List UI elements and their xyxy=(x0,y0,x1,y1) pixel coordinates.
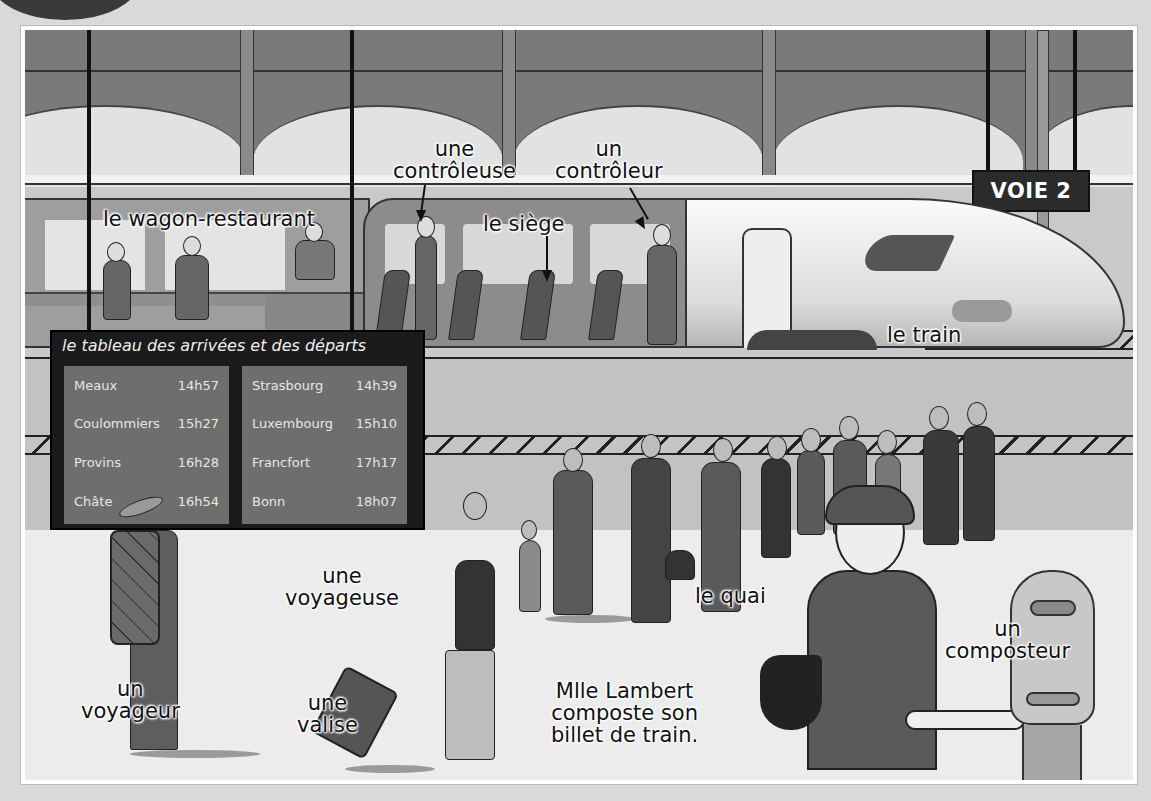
shadow xyxy=(130,750,260,758)
backpack xyxy=(110,530,160,645)
mlle-lambert-arm xyxy=(905,710,1025,730)
sign-hanger xyxy=(1073,30,1077,172)
train-bogie xyxy=(747,330,877,350)
label-controleuse: une contrôleuse xyxy=(393,138,516,182)
departures-panel: Strasbourg14h39 Luxembourg15h10 Francfor… xyxy=(242,366,407,524)
label-quai: le quai xyxy=(695,585,766,607)
shadow xyxy=(345,765,435,773)
roof-beam xyxy=(25,70,1133,72)
canopy-column xyxy=(87,30,91,340)
validator-display xyxy=(1030,600,1076,616)
chef xyxy=(295,240,335,280)
arrow-siege xyxy=(546,236,548,274)
headlights xyxy=(952,300,1012,322)
arrowhead xyxy=(416,210,426,222)
person-head xyxy=(877,430,897,454)
label-siege: le siège xyxy=(483,213,564,235)
female-traveler xyxy=(455,560,495,650)
young-man xyxy=(797,450,825,535)
woman-in-dress xyxy=(761,458,791,558)
ticket-slot xyxy=(1026,692,1080,706)
board-row: Strasbourg14h39 xyxy=(252,378,397,393)
board-row: Coulommiers15h27 xyxy=(74,416,219,431)
diner-head xyxy=(107,242,125,262)
corner-tab-decoration xyxy=(0,0,140,20)
person-head xyxy=(801,428,821,452)
label-train: le train xyxy=(887,324,961,346)
diner-man xyxy=(175,255,209,320)
traveler-head xyxy=(463,492,487,520)
label-controleur: un contrôleur xyxy=(555,138,663,182)
person-head xyxy=(839,416,859,440)
ticket-validator xyxy=(1010,570,1095,780)
sign-hanger xyxy=(986,30,990,172)
board-row: Luxembourg15h10 xyxy=(252,416,397,431)
departures-board: le tableau des arrivées et des départs M… xyxy=(50,330,425,530)
label-caption: Mlle Lambert composte son billet de trai… xyxy=(551,680,698,746)
conductor-head xyxy=(653,224,671,246)
person-head xyxy=(967,402,987,426)
label-wagon-restaurant: le wagon-restaurant xyxy=(103,208,315,230)
seat xyxy=(448,270,484,340)
mlle-lambert xyxy=(807,570,937,770)
diner-woman xyxy=(103,260,131,320)
roof-pillar xyxy=(762,30,776,180)
child-head xyxy=(521,520,537,540)
child xyxy=(519,540,541,612)
canopy-column xyxy=(350,30,354,340)
board-title: le tableau des arrivées et des départs xyxy=(62,336,366,355)
person-head xyxy=(641,434,661,458)
man-standing xyxy=(963,426,995,541)
diner-head xyxy=(183,236,201,256)
label-voyageur: un voyageur xyxy=(81,678,180,722)
cockpit-window xyxy=(859,235,956,271)
person-head xyxy=(713,438,733,462)
board-row: Provins16h28 xyxy=(74,455,219,470)
validator-post xyxy=(1022,725,1082,780)
board-row: Bonn18h07 xyxy=(252,494,397,509)
mlle-lambert-hair xyxy=(825,485,915,525)
waiting-woman xyxy=(553,470,593,615)
label-valise: une valise xyxy=(297,692,358,736)
person-head xyxy=(767,436,787,460)
briefcase xyxy=(665,550,695,580)
shoulder-bag xyxy=(760,655,822,730)
platform-sign: VOIE 2 xyxy=(972,170,1090,212)
man-with-briefcase xyxy=(631,458,671,623)
board-row: Francfort17h17 xyxy=(252,455,397,470)
arrowhead xyxy=(542,270,552,282)
dining-counter xyxy=(25,292,265,306)
female-conductor xyxy=(415,235,437,340)
roof-pillar xyxy=(240,30,254,180)
person-head xyxy=(563,448,583,472)
person-head xyxy=(929,406,949,430)
board-row: Meaux14h57 xyxy=(74,378,219,393)
male-conductor xyxy=(647,245,677,345)
man-standing xyxy=(923,430,959,545)
label-voyageuse: une voyageuse xyxy=(285,565,399,609)
traveler-pants xyxy=(445,650,495,760)
label-composteur: un composteur xyxy=(945,618,1070,662)
shadow xyxy=(545,615,635,623)
illustration-frame: VOIE 2 le wagon-restaurant xyxy=(20,25,1138,785)
station-scene: VOIE 2 le wagon-restaurant xyxy=(25,30,1133,780)
